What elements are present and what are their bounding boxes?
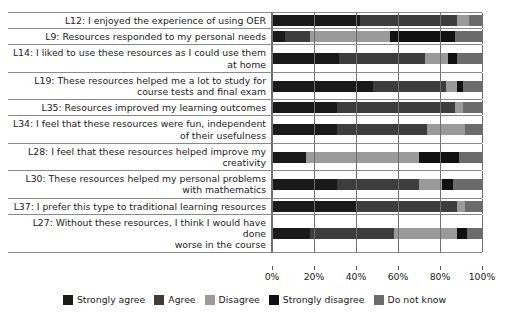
bar-segment — [360, 15, 457, 26]
category-label-line: L37: I prefer this type to traditional l… — [14, 201, 266, 212]
bar-segment — [459, 152, 482, 163]
axis-tick-label: 20% — [304, 271, 325, 282]
axis-tick — [272, 266, 273, 270]
category-label-line: L14: I liked to use these resources as I… — [13, 47, 266, 58]
bar-segment — [419, 179, 442, 190]
stacked-bar-chart: L12: I enjoyed the experience of using O… — [0, 0, 509, 324]
category-label-line: L28: I feel that these resources helped … — [28, 146, 266, 157]
bar-segment — [272, 15, 360, 26]
bar-segment — [356, 201, 457, 212]
bar-segment — [469, 15, 482, 26]
bar-segment — [465, 124, 482, 135]
bar-cell — [272, 199, 482, 214]
gridline — [482, 29, 483, 44]
bar-segment — [337, 124, 427, 135]
bar-segment — [457, 201, 465, 212]
chart-row: L9: Resources responded to my personal n… — [8, 28, 482, 44]
bar-segment — [272, 81, 373, 92]
legend-swatch-icon — [269, 295, 279, 305]
gridline — [482, 199, 483, 214]
bar-cell — [272, 73, 482, 99]
stacked-bar — [272, 152, 482, 163]
legend-item: Strongly disagree — [269, 294, 365, 305]
legend-swatch-icon — [205, 295, 215, 305]
category-label-line: L12: I enjoyed the experience of using O… — [65, 15, 266, 26]
legend-swatch-icon — [154, 295, 164, 305]
axis-tick — [482, 266, 483, 270]
bar-segment — [425, 53, 448, 64]
category-label-line: course tests and final exam — [34, 86, 266, 97]
category-label-line: L34: I feel that these resources were fu… — [13, 118, 266, 129]
bar-segment — [455, 31, 482, 42]
category-label: L37: I prefer this type to traditional l… — [8, 199, 272, 214]
bar-segment — [373, 81, 447, 92]
category-label-line: worse in the course — [12, 239, 266, 250]
stacked-bar — [272, 228, 482, 239]
category-label-line: with mathematics — [25, 184, 266, 195]
bar-segment — [339, 53, 425, 64]
bar-cell — [272, 116, 482, 142]
axis-tick — [356, 266, 357, 270]
category-label-line: creativity — [28, 157, 266, 168]
chart-row: L27: Without these resources, I think I … — [8, 214, 482, 254]
chart-row: L35: Resources improved my learning outc… — [8, 99, 482, 115]
legend-label: Agree — [168, 294, 195, 305]
bar-segment — [310, 31, 390, 42]
stacked-bar — [272, 15, 482, 26]
category-label-line: L30: These resources helped my personal … — [25, 173, 266, 184]
legend-item: Disagree — [205, 294, 260, 305]
bar-segment — [306, 152, 419, 163]
category-label: L30: These resources helped my personal … — [8, 171, 272, 197]
bar-segment — [272, 201, 356, 212]
chart-row: L19: These resources helped me a lot to … — [8, 72, 482, 99]
bar-cell — [272, 45, 482, 71]
bar-segment — [272, 179, 337, 190]
bar-segment — [455, 102, 463, 113]
gridline — [482, 144, 483, 170]
bar-segment — [453, 179, 482, 190]
gridline — [482, 171, 483, 197]
chart-row: L28: I feel that these resources helped … — [8, 143, 482, 170]
stacked-bar — [272, 179, 482, 190]
bar-segment — [463, 102, 482, 113]
bar-segment — [457, 15, 470, 26]
bar-segment — [272, 152, 306, 163]
axis-tick-label: 80% — [430, 271, 451, 282]
axis-tick — [314, 266, 315, 270]
axis-tick-label: 60% — [388, 271, 409, 282]
plot-area: L12: I enjoyed the experience of using O… — [0, 0, 509, 290]
category-label: L28: I feel that these resources helped … — [8, 144, 272, 170]
category-label: L34: I feel that these resources were fu… — [8, 116, 272, 142]
gridline — [482, 100, 483, 115]
axis-tick-label: 40% — [346, 271, 367, 282]
bar-segment — [337, 102, 455, 113]
category-label: L12: I enjoyed the experience of using O… — [8, 13, 272, 28]
axis-tick — [440, 266, 441, 270]
bar-segment — [448, 53, 456, 64]
category-label-line: L19: These resources helped me a lot to … — [34, 75, 266, 86]
gridline — [482, 73, 483, 99]
category-label: L27: Without these resources, I think I … — [8, 215, 272, 253]
bar-segment — [272, 31, 285, 42]
gridline — [482, 215, 483, 253]
bar-segment — [467, 228, 482, 239]
bar-segment — [442, 179, 453, 190]
chart-row: L12: I enjoyed the experience of using O… — [8, 12, 482, 28]
category-label: L14: I liked to use these resources as I… — [8, 45, 272, 71]
stacked-bar — [272, 31, 482, 42]
chart-row: L37: I prefer this type to traditional l… — [8, 198, 482, 214]
bar-segment — [285, 31, 310, 42]
bar-segment — [427, 124, 465, 135]
legend-label: Do not know — [388, 294, 447, 305]
chart-row: L14: I liked to use these resources as I… — [8, 44, 482, 71]
stacked-bar — [272, 81, 482, 92]
stacked-bar — [272, 102, 482, 113]
legend-item: Agree — [154, 294, 195, 305]
bar-cell — [272, 13, 482, 28]
legend-label: Strongly agree — [77, 294, 145, 305]
legend-item: Do not know — [374, 294, 447, 305]
legend-item: Strongly agree — [63, 294, 145, 305]
category-label-line: L27: Without these resources, I think I … — [12, 217, 266, 239]
category-label: L35: Resources improved my learning outc… — [8, 100, 272, 115]
axis-tick-label: 100% — [469, 271, 496, 282]
